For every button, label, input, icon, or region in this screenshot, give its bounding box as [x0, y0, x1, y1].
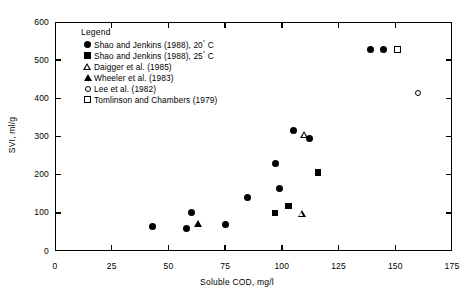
legend-title: Legend: [81, 27, 217, 37]
y-axis-tick-label: 100: [15, 208, 49, 217]
x-axis-tick-label: 0: [35, 262, 75, 271]
x-axis-label: Soluble COD, mg/l: [0, 277, 474, 287]
legend-label: Shao and Jenkins (1988), 25° C: [94, 50, 214, 61]
x-axis-tick-top: [224, 22, 225, 28]
data-point: [276, 185, 283, 192]
y-axis-label: SVI, ml/g: [7, 85, 17, 185]
marker-filled-circle: [272, 160, 279, 167]
data-point: [183, 225, 190, 232]
marker-open-circle: [85, 86, 91, 92]
x-axis-tick: [395, 245, 396, 251]
legend-label: Daigger et al. (1985): [94, 62, 172, 72]
marker-filled-circle: [84, 41, 91, 48]
y-axis-tick-right: [446, 212, 452, 213]
legend-item: Lee et al. (1982): [81, 83, 217, 94]
y-axis-tick-right: [446, 59, 452, 60]
data-point: [290, 127, 297, 134]
marker-filled-circle: [183, 225, 190, 232]
x-axis-tick-top: [338, 22, 339, 28]
marker-filled-circle: [367, 46, 374, 53]
marker-filled-circle: [276, 185, 283, 192]
scatter-chart-figure: 01002003004005006000255075100125150175 S…: [0, 0, 474, 300]
y-axis-tick: [55, 212, 61, 213]
data-point: [194, 220, 202, 227]
data-point: [222, 221, 229, 228]
marker-filled-circle: [380, 46, 387, 53]
marker-filled-circle: [188, 209, 195, 216]
data-point: [272, 160, 279, 167]
y-axis-tick: [55, 59, 61, 60]
x-axis-tick-label: 50: [148, 262, 188, 271]
data-point: [272, 210, 279, 217]
y-axis-tick-label: 400: [15, 94, 49, 103]
x-axis-tick-label: 25: [92, 262, 132, 271]
data-point: [285, 203, 292, 210]
x-axis-tick: [111, 245, 112, 251]
marker-open-square: [394, 46, 401, 53]
legend: Legend Shao and Jenkins (1988), 20° CSha…: [81, 27, 217, 105]
y-axis-tick: [55, 174, 61, 175]
x-axis-tick: [224, 245, 225, 251]
marker-open-triangle: [300, 131, 308, 138]
data-point: [188, 209, 195, 216]
marker-filled-square: [272, 210, 279, 217]
y-axis-tick: [55, 136, 61, 137]
legend-label: Lee et al. (1982): [94, 84, 156, 94]
data-point: [244, 194, 251, 201]
x-axis-tick-top: [281, 22, 282, 28]
data-point: [315, 169, 322, 176]
x-axis-tick-label: 175: [432, 262, 472, 271]
legend-marker: [81, 50, 94, 61]
data-point: [367, 46, 374, 53]
y-axis-tick-right: [446, 136, 452, 137]
y-axis-tick-label: 600: [15, 18, 49, 27]
legend-item: Shao and Jenkins (1988), 20° C: [81, 39, 217, 50]
y-axis-tick-label: 200: [15, 170, 49, 179]
marker-open-triangle: [298, 210, 306, 217]
marker-open-square: [84, 96, 91, 103]
x-axis-tick-label: 150: [375, 262, 415, 271]
legend-marker: [81, 72, 94, 83]
legend-label: Wheeler et al. (1983): [94, 73, 174, 83]
data-point: [415, 90, 421, 96]
legend-marker: [81, 61, 94, 72]
data-point: [149, 223, 156, 230]
data-point: [298, 210, 306, 217]
data-point: [394, 46, 401, 53]
marker-filled-square: [84, 52, 91, 59]
y-axis-tick: [55, 98, 61, 99]
legend-marker: [81, 94, 94, 105]
legend-rows: Shao and Jenkins (1988), 20° CShao and J…: [81, 39, 217, 105]
y-axis-tick-label: 500: [15, 56, 49, 65]
legend-label: Shao and Jenkins (1988), 20° C: [94, 39, 214, 50]
legend-item: Wheeler et al. (1983): [81, 72, 217, 83]
x-axis-tick: [168, 245, 169, 251]
y-axis-tick-label: 300: [15, 132, 49, 141]
legend-item: Tomlinson and Chambers (1979): [81, 94, 217, 105]
marker-filled-circle: [244, 194, 251, 201]
marker-filled-circle: [290, 127, 297, 134]
legend-item: Shao and Jenkins (1988), 25° C: [81, 50, 217, 61]
x-axis-tick: [281, 245, 282, 251]
marker-filled-circle: [222, 221, 229, 228]
marker-open-circle: [415, 90, 421, 96]
marker-open-triangle: [83, 63, 91, 70]
x-axis-tick-label: 125: [319, 262, 359, 271]
y-axis-tick-right: [446, 174, 452, 175]
legend-marker: [81, 83, 94, 94]
y-axis-tick-label: 0: [15, 247, 49, 256]
data-point: [380, 46, 387, 53]
legend-label: Tomlinson and Chambers (1979): [94, 95, 217, 105]
x-axis-tick-top: [395, 22, 396, 28]
legend-item: Daigger et al. (1985): [81, 61, 217, 72]
x-axis-tick-label: 100: [262, 262, 302, 271]
marker-filled-square: [315, 169, 322, 176]
marker-filled-circle: [149, 223, 156, 230]
x-axis-tick: [338, 245, 339, 251]
marker-filled-square: [285, 203, 292, 210]
x-axis-tick-label: 75: [205, 262, 245, 271]
marker-filled-triangle: [194, 220, 202, 227]
marker-filled-triangle: [84, 74, 92, 81]
data-point: [300, 131, 308, 138]
legend-marker: [81, 39, 94, 50]
